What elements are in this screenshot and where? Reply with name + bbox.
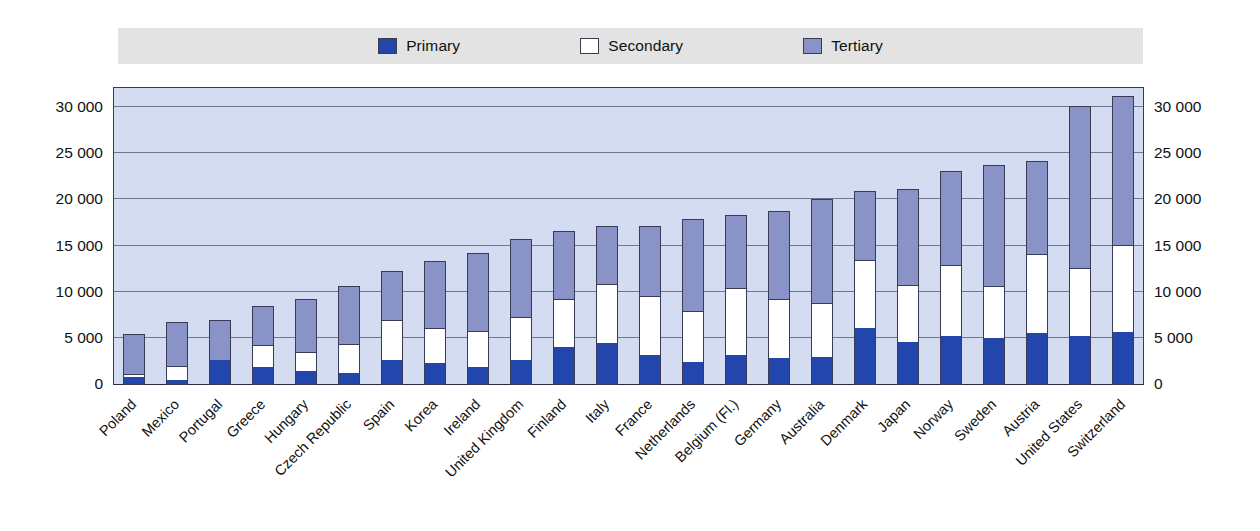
bar-segment-secondary bbox=[768, 299, 790, 358]
y-tick-label: 25 000 bbox=[1154, 144, 1240, 162]
bar-segment-tertiary bbox=[940, 171, 962, 265]
bar-segment-primary bbox=[854, 328, 876, 385]
bar-norway[interactable] bbox=[940, 171, 962, 385]
bar-australia[interactable] bbox=[811, 199, 833, 385]
chart-legend: Primary Secondary Tertiary bbox=[118, 28, 1143, 64]
bars-layer bbox=[113, 87, 1144, 385]
bar-netherlands[interactable] bbox=[682, 219, 704, 385]
y-tick-label: 10 000 bbox=[17, 283, 103, 301]
x-tick-label: Sweden bbox=[951, 396, 999, 444]
bar-segment-tertiary bbox=[897, 189, 919, 285]
bar-italy[interactable] bbox=[596, 226, 618, 385]
bar-segment-tertiary bbox=[381, 271, 403, 321]
bar-segment-secondary bbox=[854, 260, 876, 328]
x-tick-label: Italy bbox=[582, 396, 612, 426]
legend-label-primary: Primary bbox=[406, 37, 460, 55]
square-swatch-icon-tertiary bbox=[803, 38, 822, 54]
x-axis-category-labels: PolandMexicoPortugalGreeceHungaryCzech R… bbox=[113, 390, 1144, 530]
bar-segment-tertiary bbox=[854, 191, 876, 259]
x-tick-label: Korea bbox=[402, 396, 441, 435]
y-tick-label: 20 000 bbox=[1154, 190, 1240, 208]
bar-segment-tertiary bbox=[166, 322, 188, 365]
y-tick-label: 30 000 bbox=[1154, 98, 1240, 116]
bar-segment-secondary bbox=[1026, 254, 1048, 333]
bar-segment-tertiary bbox=[725, 215, 747, 288]
bar-segment-primary bbox=[940, 336, 962, 385]
bar-segment-primary bbox=[897, 342, 919, 385]
bar-sweden[interactable] bbox=[983, 165, 1005, 385]
bar-poland[interactable] bbox=[123, 334, 145, 385]
y-tick-label: 0 bbox=[17, 375, 103, 393]
square-swatch-icon-secondary bbox=[580, 38, 599, 54]
x-tick-label: Spain bbox=[360, 396, 398, 434]
bar-segment-primary bbox=[381, 360, 403, 385]
bar-ireland[interactable] bbox=[467, 253, 489, 385]
bar-finland[interactable] bbox=[553, 231, 575, 385]
bar-japan[interactable] bbox=[897, 189, 919, 385]
bar-segment-tertiary bbox=[467, 253, 489, 330]
bar-segment-tertiary bbox=[123, 334, 145, 374]
y-tick-label: 10 000 bbox=[1154, 283, 1240, 301]
bar-segment-primary bbox=[1026, 333, 1048, 385]
y-tick-label: 0 bbox=[1154, 375, 1240, 393]
bar-segment-secondary bbox=[897, 285, 919, 341]
bar-segment-secondary bbox=[639, 296, 661, 356]
bar-segment-primary bbox=[467, 367, 489, 385]
bar-segment-primary bbox=[596, 343, 618, 385]
bar-mexico[interactable] bbox=[166, 322, 188, 385]
bar-segment-primary bbox=[424, 363, 446, 385]
bar-germany[interactable] bbox=[768, 211, 790, 385]
bar-segment-tertiary bbox=[338, 286, 360, 344]
bar-segment-secondary bbox=[381, 320, 403, 360]
bar-belgium-fl[interactable] bbox=[725, 215, 747, 385]
bar-segment-secondary bbox=[510, 317, 532, 360]
bar-segment-primary bbox=[553, 347, 575, 385]
bar-segment-primary bbox=[123, 377, 145, 385]
x-tick-label: Finland bbox=[524, 396, 569, 441]
bar-segment-primary bbox=[768, 358, 790, 385]
bar-segment-tertiary bbox=[768, 211, 790, 300]
y-tick-label: 25 000 bbox=[17, 144, 103, 162]
y-tick-label: 15 000 bbox=[1154, 237, 1240, 255]
x-tick-label: United Kingdom bbox=[442, 396, 526, 480]
bar-segment-secondary bbox=[166, 366, 188, 380]
legend-label-tertiary: Tertiary bbox=[831, 37, 883, 55]
legend-item-primary: Primary bbox=[378, 37, 460, 55]
bar-hungary[interactable] bbox=[295, 299, 317, 385]
bar-segment-tertiary bbox=[1026, 161, 1048, 254]
stacked-bar-chart: Primary Secondary Tertiary 05 00010 0001… bbox=[0, 0, 1260, 531]
bar-greece[interactable] bbox=[252, 306, 274, 385]
bar-france[interactable] bbox=[639, 226, 661, 385]
y-tick-label: 15 000 bbox=[17, 237, 103, 255]
square-swatch-icon-primary bbox=[378, 38, 397, 54]
bar-segment-primary bbox=[338, 373, 360, 385]
bar-segment-tertiary bbox=[424, 261, 446, 327]
bar-denmark[interactable] bbox=[854, 191, 876, 385]
bar-spain[interactable] bbox=[381, 271, 403, 385]
bar-segment-secondary bbox=[467, 331, 489, 367]
bar-segment-primary bbox=[166, 380, 188, 385]
x-tick-label: Portugal bbox=[176, 396, 226, 446]
bar-segment-secondary bbox=[725, 288, 747, 355]
bar-czech-republic[interactable] bbox=[338, 286, 360, 385]
bar-segment-tertiary bbox=[983, 165, 1005, 286]
y-tick-label: 5 000 bbox=[1154, 329, 1240, 347]
bar-austria[interactable] bbox=[1026, 161, 1048, 385]
x-tick-label: Poland bbox=[97, 396, 140, 439]
bar-segment-primary bbox=[209, 360, 231, 385]
bar-segment-primary bbox=[295, 371, 317, 385]
bar-switzerland[interactable] bbox=[1112, 96, 1134, 385]
y-tick-label: 5 000 bbox=[17, 329, 103, 347]
bar-segment-primary bbox=[252, 367, 274, 385]
bar-portugal[interactable] bbox=[209, 320, 231, 386]
bar-korea[interactable] bbox=[424, 261, 446, 385]
x-tick-label: Japan bbox=[874, 396, 913, 435]
bar-segment-tertiary bbox=[1069, 106, 1091, 267]
bar-segment-secondary bbox=[252, 345, 274, 367]
bar-segment-secondary bbox=[553, 299, 575, 347]
bar-united-kingdom[interactable] bbox=[510, 239, 532, 385]
bar-united-states[interactable] bbox=[1069, 106, 1091, 385]
legend-label-secondary: Secondary bbox=[608, 37, 683, 55]
bar-segment-primary bbox=[811, 357, 833, 385]
bar-segment-tertiary bbox=[1112, 96, 1134, 245]
